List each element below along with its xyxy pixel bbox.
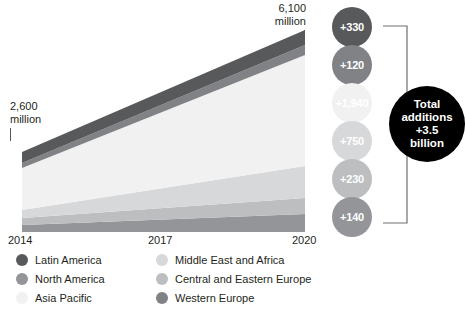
end-total-line2: million	[275, 15, 306, 27]
x-tick-2014: 2014	[8, 234, 32, 246]
total-line1: Total	[414, 98, 441, 110]
legend-label-asia-pacific: Asia Pacific	[35, 292, 92, 304]
start-callout-tick	[10, 128, 11, 141]
addition-bubble-middle-east-and-africa[interactable]: +750	[332, 121, 372, 161]
addition-bubble-label-western-europe: +120	[340, 59, 364, 71]
addition-bubble-label-central-and-eastern-europe: +230	[340, 173, 364, 185]
legend-label-north-america: North America	[35, 273, 105, 285]
legend-item-asia-pacific[interactable]: Asia Pacific	[16, 288, 105, 307]
legend-swatch-western-europe	[156, 292, 168, 304]
start-total-line2: million	[10, 113, 41, 125]
end-total-line1: 6,100	[278, 2, 306, 14]
addition-bubble-latin-america[interactable]: +330	[332, 7, 372, 47]
total-additions-circle: Total additions +3.5 billion	[389, 86, 465, 162]
addition-bubble-label-middle-east-and-africa: +750	[340, 135, 364, 147]
stacked-area-chart: 2,600 million 6,100 million 2014 2017 20…	[0, 0, 320, 250]
additions-panel: +330 +120 +1,940 +750 +230 +140 Total ad…	[325, 0, 465, 250]
legend-label-latin-america: Latin America	[35, 254, 102, 266]
chart-legend: Latin America North America Asia Pacific…	[16, 250, 316, 308]
x-tick-2017: 2017	[148, 234, 172, 246]
legend-swatch-north-america	[16, 273, 28, 285]
legend-swatch-middle-east-and-africa	[156, 254, 168, 266]
legend-item-western-europe[interactable]: Western Europe	[156, 288, 311, 307]
legend-item-latin-america[interactable]: Latin America	[16, 250, 105, 269]
legend-swatch-asia-pacific	[16, 292, 28, 304]
start-total-line1: 2,600	[10, 100, 38, 112]
addition-bubble-western-europe[interactable]: +120	[332, 45, 372, 85]
start-total-callout: 2,600 million	[10, 100, 41, 141]
addition-bubble-asia-pacific[interactable]: +1,940	[332, 83, 372, 123]
x-tick-2020: 2020	[292, 234, 316, 246]
legend-column-right: Middle East and Africa Central and Easte…	[156, 250, 311, 307]
legend-item-north-america[interactable]: North America	[16, 269, 105, 288]
addition-bubble-label-latin-america: +330	[340, 21, 364, 33]
addition-bubble-label-asia-pacific: +1,940	[336, 97, 369, 109]
legend-swatch-latin-america	[16, 254, 28, 266]
legend-label-western-europe: Western Europe	[175, 292, 254, 304]
end-callout-tick	[304, 30, 305, 43]
legend-label-central-and-eastern-europe: Central and Eastern Europe	[175, 273, 311, 285]
legend-label-middle-east-and-africa: Middle East and Africa	[175, 254, 284, 266]
legend-swatch-central-and-eastern-europe	[156, 273, 168, 285]
legend-column-left: Latin America North America Asia Pacific	[16, 250, 105, 307]
end-total-callout: 6,100 million	[258, 2, 306, 43]
infographic-root: 2,600 million 6,100 million 2014 2017 20…	[0, 0, 465, 310]
legend-item-middle-east-and-africa[interactable]: Middle East and Africa	[156, 250, 311, 269]
addition-bubble-central-and-eastern-europe[interactable]: +230	[332, 159, 372, 199]
total-line2: additions	[401, 111, 452, 123]
total-line3: +3.5	[416, 124, 439, 136]
legend-item-central-and-eastern-europe[interactable]: Central and Eastern Europe	[156, 269, 311, 288]
addition-bubble-label-north-america: +140	[340, 211, 364, 223]
total-line4: billion	[410, 137, 444, 149]
addition-bubble-north-america[interactable]: +140	[332, 197, 372, 237]
